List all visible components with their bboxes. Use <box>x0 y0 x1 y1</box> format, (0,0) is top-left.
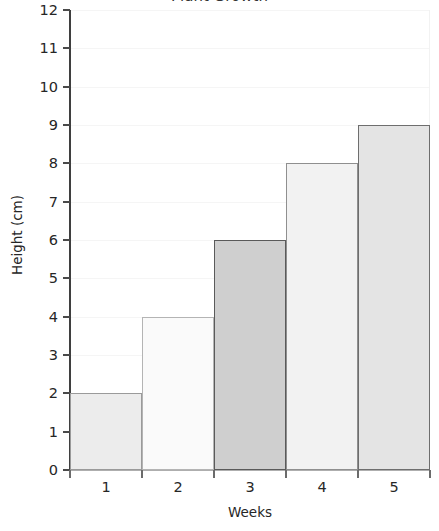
y-tick-mark <box>63 392 70 394</box>
chart-title: Plant Growth <box>0 0 439 5</box>
x-tick-mark <box>285 470 287 478</box>
y-tick-label: 6 <box>0 232 58 248</box>
bar-week-5[interactable] <box>358 125 430 470</box>
y-tick-mark <box>63 124 70 126</box>
plot-area <box>70 10 430 470</box>
x-tick-mark <box>69 470 71 478</box>
y-tick-mark <box>63 47 70 49</box>
y-tick-label: 11 <box>0 40 58 56</box>
y-tick-mark <box>63 431 70 433</box>
bar-week-2[interactable] <box>142 317 214 470</box>
x-tick-label-2: 2 <box>173 479 182 495</box>
bar-week-3[interactable] <box>214 240 286 470</box>
x-tick-mark <box>213 470 215 478</box>
x-tick-mark <box>429 470 431 478</box>
y-tick-label: 12 <box>0 2 58 18</box>
gridline <box>70 48 430 49</box>
y-tick-label: 0 <box>0 462 58 478</box>
x-tick-label-5: 5 <box>389 479 398 495</box>
y-tick-label: 1 <box>0 424 58 440</box>
y-tick-mark <box>63 9 70 11</box>
y-tick-mark <box>63 86 70 88</box>
y-tick-label: 5 <box>0 270 58 286</box>
y-tick-mark <box>63 162 70 164</box>
y-tick-mark <box>63 354 70 356</box>
x-tick-label-4: 4 <box>317 479 326 495</box>
x-tick-mark <box>357 470 359 478</box>
x-tick-label-1: 1 <box>101 479 110 495</box>
gridline <box>70 10 430 11</box>
y-tick-label: 8 <box>0 155 58 171</box>
bar-chart: Plant Growth Height (cm) 121110987654321… <box>0 0 439 531</box>
y-tick-label: 10 <box>0 79 58 95</box>
y-tick-mark <box>63 239 70 241</box>
bar-week-1[interactable] <box>70 393 142 470</box>
x-axis-title: Weeks <box>70 504 430 520</box>
y-tick-mark <box>63 201 70 203</box>
y-tick-label: 7 <box>0 194 58 210</box>
bar-week-4[interactable] <box>286 163 358 470</box>
y-tick-mark <box>63 316 70 318</box>
y-tick-label: 3 <box>0 347 58 363</box>
x-tick-mark <box>141 470 143 478</box>
gridline <box>70 87 430 88</box>
y-tick-label: 9 <box>0 117 58 133</box>
y-tick-label: 4 <box>0 309 58 325</box>
y-tick-mark <box>63 277 70 279</box>
y-tick-label: 2 <box>0 385 58 401</box>
x-tick-label-3: 3 <box>245 479 254 495</box>
